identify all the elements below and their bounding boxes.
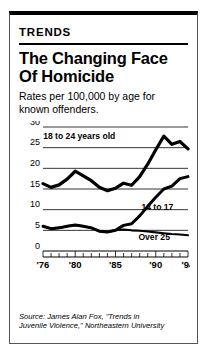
y-tick-label: 10 xyxy=(30,199,40,209)
source-note: Source: James Alan Fox, "Trends in Juven… xyxy=(19,312,191,331)
series-annotation-label: Over 25 xyxy=(138,232,170,242)
series-line xyxy=(43,136,188,191)
y-tick-label: 0 xyxy=(35,241,40,251)
x-tick-label: '90 xyxy=(149,259,162,270)
y-tick-label: 30 xyxy=(30,121,40,127)
card-inner: TRENDS The Changing Face Of Homicide Rat… xyxy=(10,15,197,343)
series-annotation-label: 14 to 17 xyxy=(141,202,173,212)
x-tick-label: '94 xyxy=(182,259,190,270)
x-tick-label: '85 xyxy=(109,259,123,270)
y-tick-label: 20 xyxy=(30,158,40,168)
homicide-line-chart: 051015202530 '76'80'85'90'94 18 to 24 ye… xyxy=(19,121,190,281)
y-tick-label: 5 xyxy=(35,220,40,230)
y-tick-label: 25 xyxy=(30,137,40,147)
x-tick-label: '80 xyxy=(69,259,82,270)
chart-y-axis-labels: 051015202530 xyxy=(30,121,40,251)
headline-line-2: Of Homicide xyxy=(19,68,188,86)
chart-svg: 051015202530 '76'80'85'90'94 18 to 24 ye… xyxy=(19,121,190,281)
chart-x-axis-labels: '76'80'85'90'94 xyxy=(37,259,190,270)
source-line-1: Source: James Alan Fox, "Trends in xyxy=(19,312,191,322)
chart-x-axis xyxy=(43,251,188,257)
page-title: The Changing Face Of Homicide xyxy=(19,50,188,85)
y-tick-label: 15 xyxy=(30,179,40,189)
headline-line-1: The Changing Face xyxy=(19,50,188,68)
chart-subtitle: Rates per 100,000 by age for known offen… xyxy=(19,90,188,115)
kicker-label: TRENDS xyxy=(19,25,188,39)
infographic-card: TRENDS The Changing Face Of Homicide Rat… xyxy=(9,11,198,344)
chart-series-lines xyxy=(43,136,188,235)
header-divider xyxy=(19,43,188,45)
source-line-2: Juvenile Violence," Northeastern Univers… xyxy=(19,321,191,331)
series-annotation-label: 18 to 24 years old xyxy=(43,131,115,141)
x-tick-label: '76 xyxy=(37,259,50,270)
